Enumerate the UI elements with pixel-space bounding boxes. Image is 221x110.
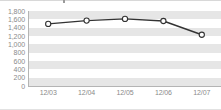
- y-tick-label: 600: [0, 58, 25, 65]
- x-axis-line: [29, 86, 221, 87]
- bottom-crop-edge: [0, 109, 221, 110]
- x-tick-label: 12/03: [28, 89, 68, 97]
- y-tick-label: 1,600: [0, 16, 25, 23]
- x-tick-label: 12/06: [143, 89, 183, 97]
- data-point-marker: [122, 16, 127, 21]
- data-point-marker: [84, 18, 89, 23]
- data-series-svg: [29, 11, 221, 86]
- y-tick-label: 200: [0, 74, 25, 81]
- y-tick-label: 1,000: [0, 41, 25, 48]
- y-tick-label: 0: [0, 83, 25, 90]
- line-chart: 1,8001,6001,4001,2001,0008006004002000 1…: [0, 0, 221, 110]
- data-point-marker: [161, 18, 166, 23]
- data-point-marker: [199, 32, 204, 37]
- x-tick-label: 12/05: [105, 89, 145, 97]
- y-tick-label: 1,800: [0, 8, 25, 15]
- top-crop-mark: [63, 0, 65, 3]
- y-tick-label: 1,200: [0, 33, 25, 40]
- data-point-marker: [46, 21, 51, 26]
- y-tick-label: 800: [0, 49, 25, 56]
- top-crop-edge: [0, 0, 221, 1]
- y-tick-label: 1,400: [0, 24, 25, 31]
- x-axis-tick-labels: 12/0312/0412/0512/0612/07: [29, 89, 221, 103]
- y-axis-line: [28, 11, 29, 87]
- y-axis-tick-labels: 1,8001,6001,4001,2001,0008006004002000: [0, 8, 27, 86]
- plot-area: [29, 11, 221, 86]
- x-tick-label: 12/07: [182, 89, 221, 97]
- x-tick-label: 12/04: [67, 89, 107, 97]
- y-tick-label: 400: [0, 66, 25, 73]
